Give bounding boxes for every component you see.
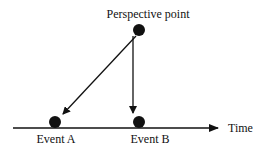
event-b-dot	[133, 116, 145, 128]
event-a-label: Event A	[37, 132, 76, 146]
perspective-diagram: Perspective point Event A Event B Time	[0, 0, 264, 153]
time-axis-label: Time	[228, 121, 253, 135]
arrow-to-event-a	[63, 36, 136, 114]
perspective-point-label: Perspective point	[107, 7, 191, 21]
event-a-dot	[49, 116, 61, 128]
perspective-point-dot	[133, 24, 145, 36]
event-b-label: Event B	[131, 132, 170, 146]
